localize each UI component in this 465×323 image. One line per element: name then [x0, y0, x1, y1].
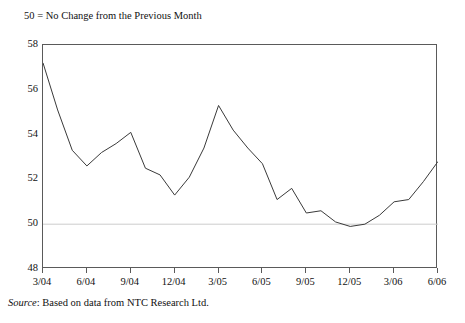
y-tick-label: 58	[16, 39, 38, 50]
x-tick-mark	[218, 268, 219, 273]
x-tick-label: 12/04	[162, 276, 186, 287]
x-tick-label: 3/06	[384, 276, 403, 287]
x-tick-mark	[130, 268, 131, 273]
y-tick-label: 48	[16, 263, 38, 274]
x-tick-label: 3/05	[208, 276, 227, 287]
source-note: Source: Based on data from NTC Research …	[8, 296, 209, 309]
y-tick-label: 50	[16, 218, 38, 229]
data-series-line	[43, 63, 438, 227]
source-text: Based on data from NTC Research Ltd.	[42, 297, 209, 308]
y-tick-label: 52	[16, 173, 38, 184]
y-tick-label: 54	[16, 129, 38, 140]
chart-note: 50 = No Change from the Previous Month	[24, 9, 202, 22]
plot-area	[42, 44, 437, 268]
x-tick-label: 6/06	[428, 276, 447, 287]
x-tick-mark	[174, 268, 175, 273]
x-tick-mark	[42, 268, 43, 273]
x-tick-label: 3/04	[33, 276, 52, 287]
x-tick-mark	[393, 268, 394, 273]
x-tick-label: 12/05	[337, 276, 361, 287]
source-label: Source	[8, 297, 37, 308]
y-axis-labels: 485052545658	[8, 0, 38, 323]
line-chart-svg	[43, 45, 438, 269]
x-tick-mark	[261, 268, 262, 273]
x-tick-label: 6/05	[252, 276, 271, 287]
x-tick-mark	[86, 268, 87, 273]
x-tick-mark	[437, 268, 438, 273]
x-tick-mark	[349, 268, 350, 273]
y-tick-label: 56	[16, 84, 38, 95]
x-tick-label: 6/04	[77, 276, 96, 287]
x-tick-label: 9/05	[296, 276, 315, 287]
x-tick-label: 9/04	[120, 276, 139, 287]
x-tick-mark	[305, 268, 306, 273]
